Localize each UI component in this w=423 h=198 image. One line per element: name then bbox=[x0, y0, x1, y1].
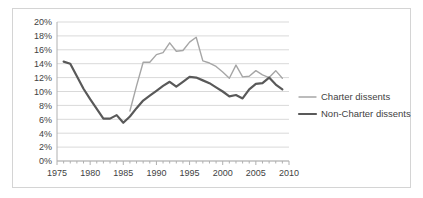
x-axis-tick-label: 2005 bbox=[246, 168, 266, 178]
y-axis-tick-label: 20% bbox=[34, 17, 52, 27]
y-axis-tick-label: 2% bbox=[39, 142, 52, 152]
y-axis-tick-label: 4% bbox=[39, 129, 52, 139]
legend-label: Charter dissents bbox=[321, 91, 390, 102]
x-axis-tick-label: 2000 bbox=[213, 168, 233, 178]
y-axis-tick-label: 18% bbox=[34, 31, 52, 41]
x-axis-tick-label: 2010 bbox=[279, 168, 299, 178]
line-chart: 20%18%16%14%12%10%8%6%4%2%0% 19751980198… bbox=[13, 9, 412, 189]
y-axis-tick-label: 0% bbox=[39, 156, 52, 166]
chart-plot-area: 20%18%16%14%12%10%8%6%4%2%0% 19751980198… bbox=[13, 9, 412, 189]
y-axis-tick-label: 14% bbox=[34, 59, 52, 69]
series-line-charter-dissents bbox=[130, 37, 282, 111]
y-axis-tick-label: 8% bbox=[39, 101, 52, 111]
x-axis-tick-labels: 19751980198519901995200020052010 bbox=[47, 168, 299, 178]
x-axis-tick-label: 1995 bbox=[180, 168, 200, 178]
chart-legend: Charter dissentsNon-Charter dissents bbox=[299, 91, 411, 119]
y-axis-tick-label: 6% bbox=[39, 115, 52, 125]
gridlines-group bbox=[57, 22, 289, 161]
legend-label: Non-Charter dissents bbox=[321, 108, 411, 119]
series-line-non-charter-dissents bbox=[64, 62, 283, 123]
x-axis-tick-label: 1990 bbox=[146, 168, 166, 178]
y-axis-tick-label: 10% bbox=[34, 87, 52, 97]
y-axis-tick-labels: 20%18%16%14%12%10%8%6%4%2%0% bbox=[34, 17, 52, 166]
x-axis-tick-label: 1985 bbox=[113, 168, 133, 178]
x-axis-tickmarks bbox=[57, 161, 289, 165]
chart-frame: 20%18%16%14%12%10%8%6%4%2%0% 19751980198… bbox=[12, 8, 411, 188]
y-axis-tick-label: 16% bbox=[34, 45, 52, 55]
x-axis-tick-label: 1975 bbox=[47, 168, 67, 178]
y-axis-tick-label: 12% bbox=[34, 73, 52, 83]
x-axis-tick-label: 1980 bbox=[80, 168, 100, 178]
